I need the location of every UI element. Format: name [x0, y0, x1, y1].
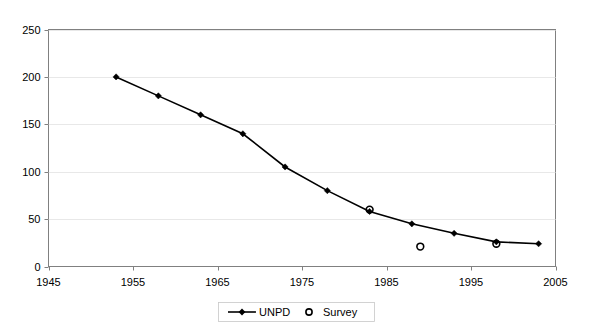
legend-label-unpd: UNPD [259, 306, 290, 318]
y-axis-label-150: 150 [22, 118, 40, 130]
line-chart: 050100150200250 194519551965197519851995… [0, 0, 591, 332]
x-axis-label-1985: 1985 [374, 276, 398, 288]
chart-legend: UNPD Survey [219, 303, 375, 322]
y-axis-label-200: 200 [22, 71, 40, 83]
x-axis-label-1945: 1945 [36, 276, 60, 288]
y-axis-label-0: 0 [34, 261, 40, 273]
x-axis-label-1995: 1995 [459, 276, 483, 288]
x-axis-label-1975: 1975 [290, 276, 314, 288]
legend-label-survey: Survey [323, 306, 358, 318]
y-axis-label-50: 50 [28, 213, 40, 225]
x-axis-label-2005: 2005 [543, 276, 567, 288]
x-axis-label-1965: 1965 [205, 276, 229, 288]
x-axis-label-1955: 1955 [121, 276, 145, 288]
y-axis-label-100: 100 [22, 166, 40, 178]
plot-area-border [49, 30, 556, 267]
y-axis-label-250: 250 [22, 24, 40, 36]
chart-container: 050100150200250 194519551965197519851995… [0, 0, 591, 332]
